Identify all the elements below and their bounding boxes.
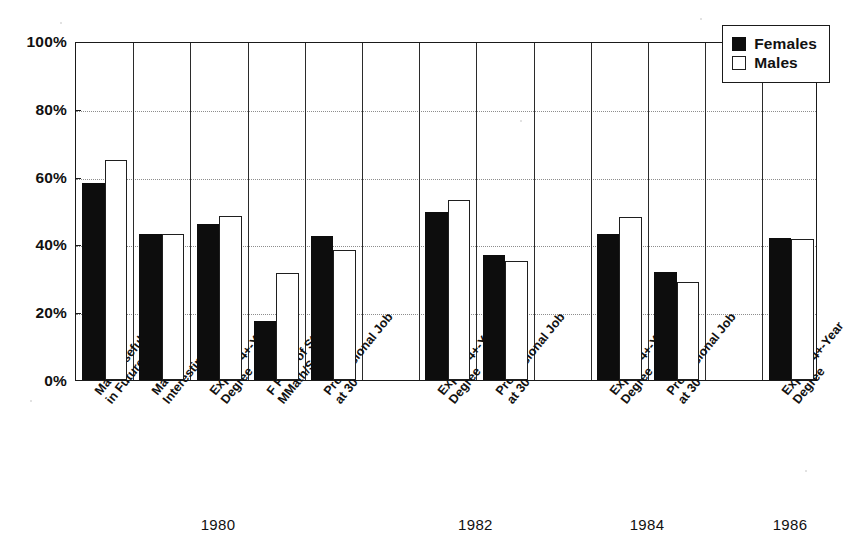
category-separator: [591, 43, 592, 380]
y-tick-label: 80%: [35, 101, 67, 119]
bar-males: [791, 239, 814, 380]
y-tick-label: 20%: [35, 304, 67, 322]
bar-females: [425, 212, 448, 380]
legend-label: Males: [754, 54, 798, 72]
bar-females: [597, 234, 620, 380]
bar-males: [105, 160, 128, 380]
bar-females: [311, 236, 334, 380]
x-group-label-1982: 1982: [458, 516, 493, 533]
y-tick-label: 100%: [27, 33, 67, 51]
plot-area: [75, 42, 817, 381]
category-separator: [476, 43, 477, 380]
category-separator: [190, 43, 191, 380]
y-tick-label: 40%: [35, 236, 67, 254]
x-group-label-1980: 1980: [201, 516, 236, 533]
bar-males: [505, 261, 528, 380]
x-group-label-1986: 1986: [773, 516, 808, 533]
legend-item-males: Males: [732, 54, 817, 72]
bar-males: [619, 217, 642, 380]
scan-speck: [700, 18, 702, 20]
bar-females: [82, 183, 105, 380]
bar-males: [162, 234, 185, 380]
bar-males: [448, 200, 471, 380]
legend-swatch-icon: [732, 37, 746, 51]
category-separator: [362, 43, 363, 380]
y-axis: [0, 0, 68, 423]
bar-females: [769, 238, 792, 380]
scan-speck: [805, 470, 807, 472]
x-group-label-1984: 1984: [630, 516, 665, 533]
category-separator: [534, 43, 535, 380]
category-separator: [419, 43, 420, 380]
bar-females: [139, 234, 162, 380]
bar-males: [677, 282, 700, 380]
bar-males: [219, 216, 242, 380]
bar-males: [276, 273, 299, 380]
bar-males: [333, 250, 356, 381]
y-tick-mark: [75, 245, 81, 246]
category-separator: [133, 43, 134, 380]
scan-speck: [520, 120, 522, 122]
legend-swatch-icon: [732, 56, 746, 70]
category-separator: [705, 43, 706, 380]
y-tick-mark: [75, 110, 81, 111]
y-tick-label: 60%: [35, 169, 67, 187]
legend-label: Females: [754, 35, 817, 53]
y-tick-mark: [75, 178, 81, 179]
category-separator: [648, 43, 649, 380]
bar-females: [254, 321, 277, 380]
legend: FemalesMales: [722, 25, 830, 83]
scan-speck: [30, 400, 32, 402]
scan-speck: [60, 22, 62, 24]
category-separator: [762, 43, 763, 380]
category-separator: [305, 43, 306, 380]
y-tick-mark: [75, 313, 81, 314]
bar-females: [654, 272, 677, 380]
y-tick-label: 0%: [44, 372, 67, 390]
bar-females: [483, 255, 506, 380]
category-separator: [248, 43, 249, 380]
bar-females: [197, 224, 220, 380]
legend-item-females: Females: [732, 35, 817, 53]
